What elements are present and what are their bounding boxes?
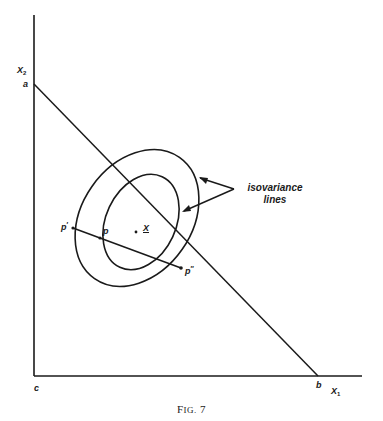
diagram-canvas (0, 0, 383, 421)
point-b-label: b (316, 381, 322, 390)
x-axis-label: X1 (331, 387, 340, 397)
p-prime-label: p′ (61, 221, 68, 232)
annotation-line-2: lines (240, 194, 310, 206)
figure-caption: FIG. 7 (0, 403, 383, 415)
outer-isovariance-ellipse (50, 126, 225, 310)
figure-7: X2 a c b X1 p′ p p″ X isovariance lines … (0, 0, 383, 421)
line-p-prime-p-double-prime (73, 228, 181, 268)
point-p (98, 236, 101, 239)
arrowhead-outer-icon (199, 177, 208, 184)
arrow-to-inner-ellipse (184, 189, 234, 211)
arrowhead-inner-icon (182, 205, 191, 212)
mean-x-label: X (143, 224, 149, 233)
point-p-double-prime (179, 266, 183, 270)
inner-isovariance-ellipse (88, 162, 194, 282)
point-p-prime (71, 226, 74, 229)
y-axis-label: X2 (17, 66, 26, 76)
isovariance-annotation: isovariance lines (240, 182, 310, 206)
point-a-label: a (23, 80, 28, 89)
annotation-line-1: isovariance (240, 182, 310, 194)
p-label: p (103, 227, 109, 236)
mean-dot (135, 231, 138, 234)
p-double-prime-label: p″ (185, 265, 194, 276)
origin-c-label: c (34, 384, 39, 393)
